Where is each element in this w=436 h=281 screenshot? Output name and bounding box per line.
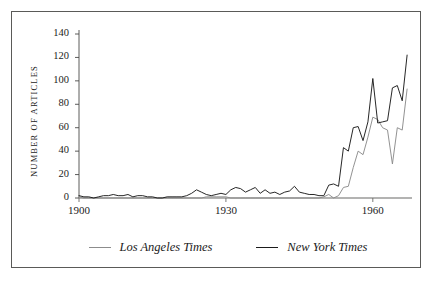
axis-lines xyxy=(79,30,412,198)
series-line-new-york-times xyxy=(79,55,407,198)
chart-legend: Los Angeles TimesNew York Times xyxy=(23,240,433,255)
legend-line-swatch xyxy=(256,247,278,248)
legend-line-swatch xyxy=(89,247,111,248)
chart-figure: NUMBER OF ARTICLES 020406080100120140 19… xyxy=(0,0,436,281)
legend-entry[interactable]: Los Angeles Times xyxy=(89,240,213,255)
line-plot xyxy=(12,12,422,269)
legend-label: New York Times xyxy=(287,240,367,255)
axis-tick-marks xyxy=(75,34,373,202)
chart-frame: NUMBER OF ARTICLES 020406080100120140 19… xyxy=(11,11,421,268)
legend-label: Los Angeles Times xyxy=(120,240,213,255)
data-series-group xyxy=(79,55,407,198)
series-line-los-angeles-times xyxy=(79,89,407,198)
legend-entry[interactable]: New York Times xyxy=(256,240,367,255)
